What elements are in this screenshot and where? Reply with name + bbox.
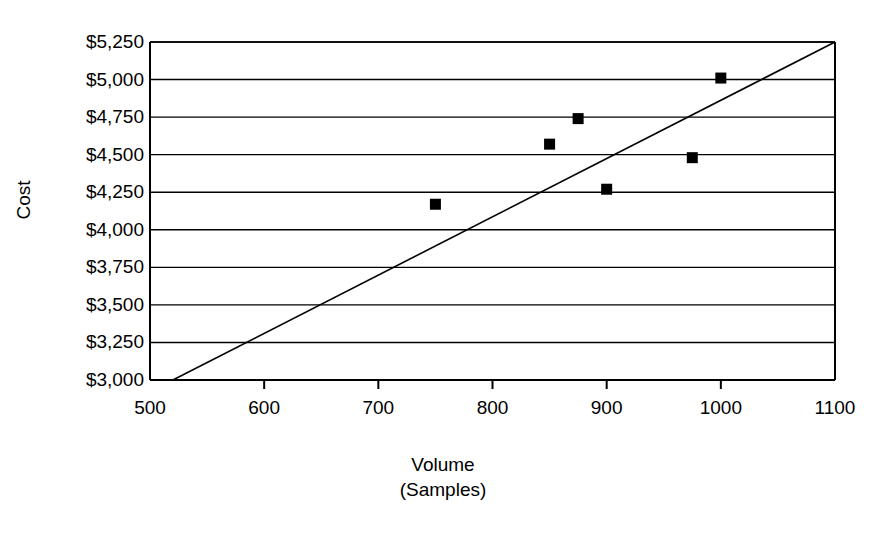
gridlines: [150, 42, 835, 380]
x-axis-title-main: Volume: [0, 452, 886, 477]
x-tick-label: 1100: [815, 398, 856, 417]
x-tick-label: 800: [477, 398, 509, 417]
data-point-marker: [601, 184, 612, 195]
data-point-marker: [430, 199, 441, 210]
x-axis-title: Volume (Samples): [0, 452, 886, 502]
data-point-marker: [687, 152, 698, 163]
x-tick-label: 500: [134, 398, 166, 417]
x-tick-label: 600: [248, 398, 280, 417]
x-axis-tick-labels: 50060070080090010001100: [0, 398, 886, 428]
data-point-marker: [573, 113, 584, 124]
x-tick-label: 700: [362, 398, 394, 417]
trend-line: [173, 42, 835, 380]
x-axis-ticks: [150, 380, 835, 389]
data-point-marker: [544, 139, 555, 150]
data-point-markers: [430, 73, 726, 210]
x-tick-label: 900: [591, 398, 623, 417]
data-point-marker: [715, 73, 726, 84]
trend-line-path: [173, 42, 835, 380]
x-tick-label: 1000: [700, 398, 742, 417]
x-axis-title-sub: (Samples): [0, 477, 886, 502]
axes: [150, 42, 835, 380]
scatter-chart: Cost $3,000$3,250$3,500$3,750$4,000$4,25…: [0, 0, 886, 535]
